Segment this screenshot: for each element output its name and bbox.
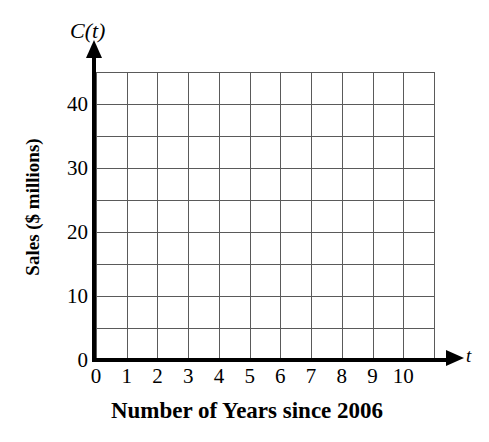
x-axis-symbol-label: t: [466, 345, 471, 367]
x-tick-label: 10: [383, 366, 423, 387]
gridline-vertical: [373, 72, 374, 360]
plot-area: [96, 72, 434, 360]
gridline-horizontal: [96, 200, 434, 201]
y-tick-label: 10: [48, 286, 88, 307]
gridline-horizontal: [96, 72, 434, 73]
gridline-vertical: [127, 72, 128, 360]
gridline-horizontal: [96, 232, 434, 233]
gridline-vertical: [434, 72, 435, 360]
gridline-vertical: [342, 72, 343, 360]
x-axis-line: [92, 358, 448, 362]
y-axis-line: [92, 54, 96, 362]
gridline-horizontal: [96, 328, 434, 329]
gridline-vertical: [280, 72, 281, 360]
gridline-horizontal: [96, 104, 434, 105]
y-tick-label: 30: [48, 158, 88, 179]
gridline-vertical: [96, 72, 97, 360]
x-axis-tick-labels: 012345678910: [0, 366, 489, 396]
gridline-vertical: [403, 72, 404, 360]
y-axis-title: Sales ($ millions): [22, 112, 44, 302]
gridline-vertical: [219, 72, 220, 360]
y-tick-label: 20: [48, 222, 88, 243]
gridline-horizontal: [96, 168, 434, 169]
gridline-horizontal: [96, 264, 434, 265]
y-tick-label: 40: [48, 94, 88, 115]
chart-figure: C(t) t 010203040 012345678910 Sales ($ m…: [0, 0, 489, 442]
x-axis-arrow-icon: [446, 350, 464, 366]
gridline-vertical: [250, 72, 251, 360]
gridline-horizontal: [96, 296, 434, 297]
x-axis-title: Number of Years since 2006: [52, 398, 442, 424]
gridline-horizontal: [96, 136, 434, 137]
gridline-vertical: [311, 72, 312, 360]
gridline-vertical: [188, 72, 189, 360]
gridline-vertical: [157, 72, 158, 360]
